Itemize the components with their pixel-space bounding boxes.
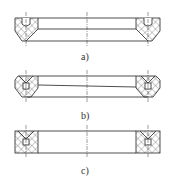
panel-c-seal	[15, 125, 160, 158]
panel-a-seal	[15, 12, 160, 46]
panel-b-seal	[15, 70, 160, 102]
seal-ring-diagram	[0, 0, 176, 186]
panel-c-label: c)	[81, 166, 89, 176]
panel-a-label: a)	[81, 52, 89, 62]
panel-b-label: b)	[81, 111, 89, 121]
